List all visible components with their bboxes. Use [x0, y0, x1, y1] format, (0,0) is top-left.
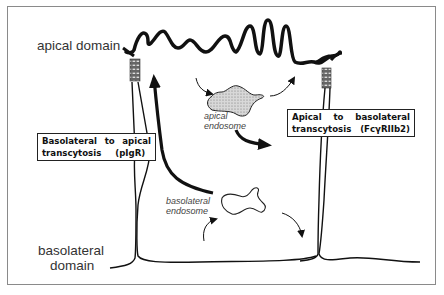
endocytosis-arrow-basolateral	[204, 219, 217, 241]
left-tight-junction	[130, 59, 140, 81]
apical-to-basolateral-arrow	[236, 130, 268, 145]
box1-word: (pIgR)	[115, 147, 145, 159]
box2-word: basolateral	[355, 111, 410, 123]
basolateral-domain-label-line2: domain	[50, 258, 94, 273]
box2-word: (FcγRIIb2)	[360, 123, 410, 135]
right-apical-membrane-stub	[331, 53, 342, 60]
box2-word: transcytosis	[292, 123, 351, 135]
box2-word: Apical	[292, 111, 322, 123]
box2-word: to	[333, 111, 343, 123]
recycling-arrow-basolateral	[282, 213, 302, 236]
basolateral-domain-label-line1: basolateral	[38, 243, 104, 258]
right-tight-junction	[322, 68, 331, 88]
box1-word: transcytosis	[42, 147, 101, 159]
box1-word: apical	[122, 135, 151, 147]
box1-word: Basolateral	[42, 135, 97, 147]
apical-membrane	[126, 20, 340, 63]
recycling-arrow-apical	[270, 78, 294, 96]
apical-domain-label: apical domain	[37, 38, 120, 53]
basolateral-to-apical-box: Basolateral to apical transcytosis (pIgR…	[37, 133, 156, 161]
endocytosis-arrow-apical	[196, 78, 212, 94]
left-lateral-membrane-a	[110, 82, 136, 268]
apical-to-basolateral-box: Apical to basolateral transcytosis (FcγR…	[287, 109, 415, 137]
basolateral-endosome-shape	[222, 188, 266, 215]
box1-word: to	[105, 135, 115, 147]
basolateral-endosome-label-line2: endosome	[166, 206, 208, 217]
apical-endosome-label-line2: endosome	[204, 121, 246, 132]
basolateral-to-apical-arrow	[154, 78, 213, 193]
